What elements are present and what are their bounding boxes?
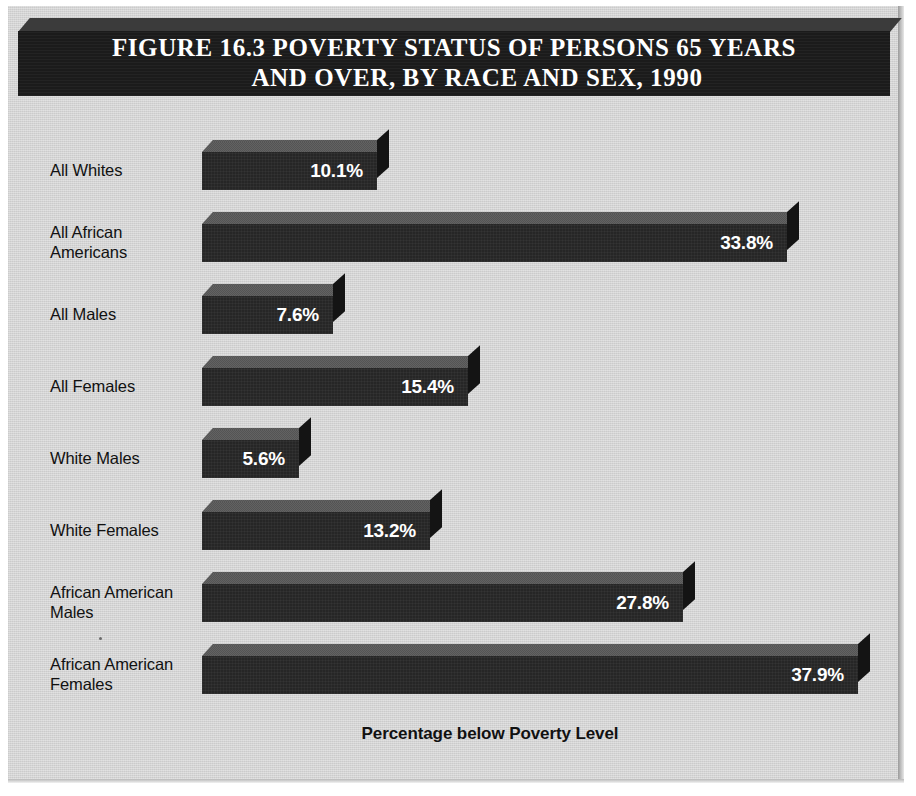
bar: 7.6% [202,284,333,334]
bar: 13.2% [202,500,430,550]
bar-side-face [333,273,345,322]
bar-row: All Males7.6% [0,284,916,356]
bar-category-label-line-1: African American [50,582,200,602]
bar-top-face [202,212,798,224]
bar-row: White Females13.2% [0,500,916,572]
bar-category-label: All Whites [50,160,200,180]
bar-side-face [468,345,480,394]
bar-row: African AmericanMales27.8% [0,572,916,644]
bar-top-face [202,140,388,152]
bar-category-label: African AmericanFemales [50,654,200,694]
bar-top-face [202,284,344,296]
bar-category-label-line-1: All African [50,222,200,242]
bar-category-label-line-1: All Whites [50,160,200,180]
bar-value-label: 13.2% [363,512,416,550]
bar-category-label-line-2: Americans [50,242,200,262]
bar-front-face [202,656,858,694]
bar-front-face [202,584,683,622]
bar-value-label: 37.9% [791,656,844,694]
scan-artifact-speck [99,637,102,640]
bar: 5.6% [202,428,299,478]
x-axis-caption: Percentage below Poverty Level [200,724,780,744]
bar-row: All Whites10.1% [0,140,916,212]
bar-side-face [377,129,389,178]
bar-value-label: 7.6% [276,296,319,334]
bar-category-label-line-1: All Females [50,376,200,396]
bar-category-label: All Females [50,376,200,396]
bar-category-label: African AmericanMales [50,582,200,622]
figure-root: FIGURE 16.3 POVERTY STATUS OF PERSONS 65… [0,0,916,796]
bar-value-label: 33.8% [720,224,773,262]
bar-category-label-line-1: African American [50,654,200,674]
bar-top-face [202,500,441,512]
bar-row: All Females15.4% [0,356,916,428]
bar-category-label-line-1: White Males [50,448,200,468]
bar: 37.9% [202,644,858,694]
bar-top-face [202,572,694,584]
bar-category-label: All AfricanAmericans [50,222,200,262]
bar-top-face [202,356,479,368]
bar-row: White Males5.6% [0,428,916,500]
bar-category-label: White Males [50,448,200,468]
bar-side-face [787,201,799,250]
bar-top-face [202,644,869,656]
bar: 33.8% [202,212,787,262]
bar-row: All AfricanAmericans33.8% [0,212,916,284]
bar-value-label: 15.4% [401,368,454,406]
bar-category-label-line-2: Females [50,674,200,694]
bar: 27.8% [202,572,683,622]
bar: 10.1% [202,140,377,190]
bar-side-face [430,489,442,538]
bar: 15.4% [202,356,468,406]
bar-side-face [299,417,311,466]
bar-value-label: 10.1% [310,152,363,190]
bar-value-label: 27.8% [616,584,669,622]
bar-side-face [858,633,870,682]
bar-category-label-line-2: Males [50,602,200,622]
bar-front-face [202,224,787,262]
bar-category-label-line-1: White Females [50,520,200,540]
bar-side-face [683,561,695,610]
bar-category-label: All Males [50,304,200,324]
bar-category-label: White Females [50,520,200,540]
bar-row: African AmericanFemales37.9% [0,644,916,716]
bar-top-face [202,428,310,440]
bar-value-label: 5.6% [242,440,285,478]
bar-category-label-line-1: All Males [50,304,200,324]
bar-chart: All Whites10.1%All AfricanAmericans33.8%… [0,0,916,796]
